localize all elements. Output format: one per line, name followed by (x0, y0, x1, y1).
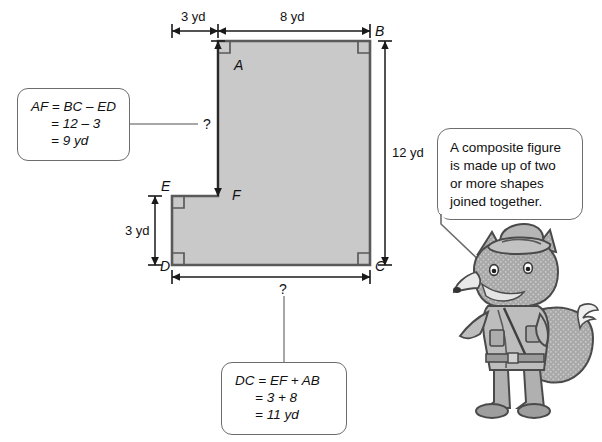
speech-bubble-line3: or more shapes (450, 175, 570, 193)
callout-dc-line2: = 3 + 8 (235, 389, 334, 406)
dimension-label-right: 12 yd (392, 146, 424, 159)
vertex-label-a: A (234, 58, 243, 72)
vertex-label-f: F (232, 188, 241, 202)
vertex-label-b: B (375, 24, 384, 38)
composite-figure-shape (172, 41, 370, 265)
unknown-vertical-label: ? (203, 117, 211, 131)
callout-dc-line3: = 11 yd (235, 406, 334, 423)
vertex-label-c: C (375, 259, 385, 273)
dimension-label-top-right: 8 yd (280, 10, 305, 23)
callout-af-line1: AF = BC – ED (31, 98, 117, 115)
fox-hat (488, 224, 550, 254)
callout-dc-line1: DC = EF + AB (235, 372, 334, 389)
fox-character (452, 218, 602, 442)
vertex-label-e: E (161, 179, 170, 193)
speech-bubble: A composite figure is made up of two or … (437, 128, 583, 220)
callout-af-line2: = 12 – 3 (31, 115, 117, 132)
callout-dc: DC = EF + AB = 3 + 8 = 11 yd (221, 362, 347, 435)
fox-legs (476, 370, 550, 418)
vertex-label-d: D (160, 259, 170, 273)
callout-af-line3: = 9 yd (31, 132, 117, 149)
unknown-bottom-label: ? (279, 282, 287, 296)
dimension-label-left: 3 yd (125, 224, 150, 237)
dimension-label-top-left: 3 yd (181, 10, 206, 23)
speech-bubble-line2: is made up of two (450, 157, 570, 175)
speech-bubble-line1: A composite figure (450, 139, 570, 157)
callout-af: AF = BC – ED = 12 – 3 = 9 yd (17, 88, 130, 161)
